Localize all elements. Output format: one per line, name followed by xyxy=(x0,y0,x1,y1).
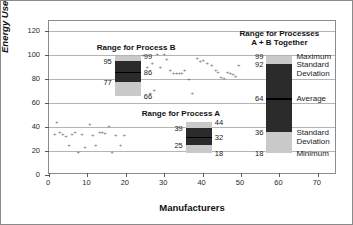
annotation-std-dev-upper-line2: Deviation xyxy=(296,69,329,78)
value-label-combined-maximum: 99 xyxy=(250,52,263,60)
data-point xyxy=(122,133,127,138)
range-box-process-a xyxy=(186,122,212,153)
x-tick-20 xyxy=(126,173,127,177)
data-point xyxy=(215,70,220,75)
x-tick-10 xyxy=(87,173,88,177)
x-tick-label-10: 10 xyxy=(73,179,99,187)
x-tick-0 xyxy=(49,173,50,177)
value-label-process-b-std_low: 77 xyxy=(99,79,112,87)
annotation-minimum: Minimum xyxy=(296,149,328,158)
data-point xyxy=(97,130,102,135)
y-tick-label-20: 20 xyxy=(16,146,40,154)
data-point xyxy=(182,68,187,73)
y-tick-label-100: 100 xyxy=(16,50,40,58)
x-tick-label-50: 50 xyxy=(227,179,253,187)
data-point xyxy=(83,145,88,150)
value-label-process-a-minimum: 18 xyxy=(215,150,223,158)
x-axis-title: Manufacturers xyxy=(48,202,336,213)
value-label-process-b-std_high: 95 xyxy=(99,57,112,65)
y-tick-120 xyxy=(45,31,49,32)
data-point xyxy=(198,59,203,64)
y-tick-label-120: 120 xyxy=(16,26,40,34)
y-tick-label-0: 0 xyxy=(16,171,40,179)
data-point xyxy=(93,143,98,148)
y-tick-20 xyxy=(45,151,49,152)
x-tick-70 xyxy=(318,173,319,177)
data-point xyxy=(70,132,75,137)
x-tick-60 xyxy=(279,173,280,177)
value-label-process-a-std_high: 39 xyxy=(170,125,183,133)
data-point xyxy=(213,68,218,73)
annotation-average: Average xyxy=(296,94,326,103)
data-point xyxy=(73,130,78,135)
x-tick-label-70: 70 xyxy=(304,179,330,187)
caption-process-b: Range for Process B xyxy=(97,43,176,52)
data-point xyxy=(168,68,173,73)
value-label-process-a-std_low: 25 xyxy=(170,141,183,149)
data-point xyxy=(54,120,59,125)
data-point xyxy=(158,65,163,70)
x-tick-label-0: 0 xyxy=(35,179,61,187)
value-label-combined-minimum: 18 xyxy=(250,150,263,158)
data-point xyxy=(80,132,85,137)
data-point xyxy=(230,72,235,77)
data-point xyxy=(205,61,210,66)
data-point xyxy=(103,131,108,136)
data-point xyxy=(150,61,155,66)
y-tick-label-60: 60 xyxy=(16,98,40,106)
annotation-std-dev-upper-line1: Standard xyxy=(296,60,328,69)
data-point xyxy=(152,88,157,93)
data-point xyxy=(57,130,62,135)
value-label-combined-std_low: 36 xyxy=(250,128,263,136)
y-tick-label-40: 40 xyxy=(16,122,40,130)
range-box-process-b xyxy=(115,56,141,96)
x-tick-label-20: 20 xyxy=(112,179,138,187)
value-label-combined-std_high: 92 xyxy=(250,61,263,69)
data-point xyxy=(236,63,241,68)
data-point xyxy=(179,71,184,76)
value-label-process-b-maximum: 99 xyxy=(144,52,152,60)
data-point xyxy=(60,132,65,137)
average-line-process-a xyxy=(186,137,212,139)
plot-area: 9995867766Range for Process B4439322518R… xyxy=(48,20,336,174)
y-tick-label-80: 80 xyxy=(16,74,40,82)
figure-container: Energy Use (MJ) Manufacturers 9995867766… xyxy=(0,0,353,225)
y-axis-title-main: Energy Use xyxy=(0,1,10,53)
data-point xyxy=(174,71,179,76)
annotation-std-dev-lower-line2: Deviation xyxy=(296,137,329,146)
data-point xyxy=(90,133,95,138)
data-point xyxy=(171,71,176,76)
data-point xyxy=(113,133,118,138)
data-point xyxy=(100,130,105,135)
value-label-process-b-minimum: 66 xyxy=(144,92,152,100)
data-point xyxy=(195,56,200,61)
value-label-process-a-average: 32 xyxy=(215,133,223,141)
x-tick-label-60: 60 xyxy=(265,179,291,187)
caption-combined-line1: Range for Processes xyxy=(221,29,337,38)
data-point xyxy=(209,63,214,68)
y-tick-80 xyxy=(45,79,49,80)
value-label-process-b-average: 86 xyxy=(144,68,152,76)
value-label-combined-average: 64 xyxy=(250,95,263,103)
range-box-combined xyxy=(266,56,292,153)
x-tick-label-30: 30 xyxy=(150,179,176,187)
data-point xyxy=(63,134,68,139)
caption-combined-line2: A + B Together xyxy=(221,38,337,47)
caption-process-a: Range for Process A xyxy=(142,109,220,118)
y-tick-40 xyxy=(45,127,49,128)
y-tick-60 xyxy=(45,103,49,104)
x-tick-30 xyxy=(164,173,165,177)
data-point xyxy=(66,143,71,148)
x-tick-40 xyxy=(203,173,204,177)
data-point xyxy=(201,58,206,63)
data-point xyxy=(118,143,123,148)
annotation-std-dev-lower-line1: Standard xyxy=(296,128,328,137)
data-point xyxy=(190,91,195,96)
average-line-process-b xyxy=(115,72,141,74)
data-point xyxy=(177,71,182,76)
data-point xyxy=(225,70,230,75)
data-point xyxy=(228,71,233,76)
data-point xyxy=(164,57,169,62)
average-line-combined xyxy=(266,98,292,100)
y-tick-100 xyxy=(45,55,49,56)
